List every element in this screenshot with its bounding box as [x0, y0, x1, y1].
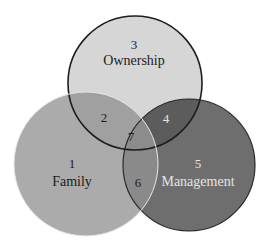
region-2-number: 2 — [101, 111, 108, 124]
region-4-number: 4 — [163, 112, 170, 125]
family-number: 1 — [69, 157, 76, 170]
management-label: Management — [161, 175, 234, 189]
management-number: 5 — [195, 157, 202, 170]
region-7-number: 7 — [128, 130, 135, 143]
ownership-number: 3 — [131, 38, 138, 51]
family-label: Family — [52, 175, 92, 189]
region-6-number: 6 — [135, 176, 142, 189]
ownership-label: Ownership — [103, 54, 164, 68]
